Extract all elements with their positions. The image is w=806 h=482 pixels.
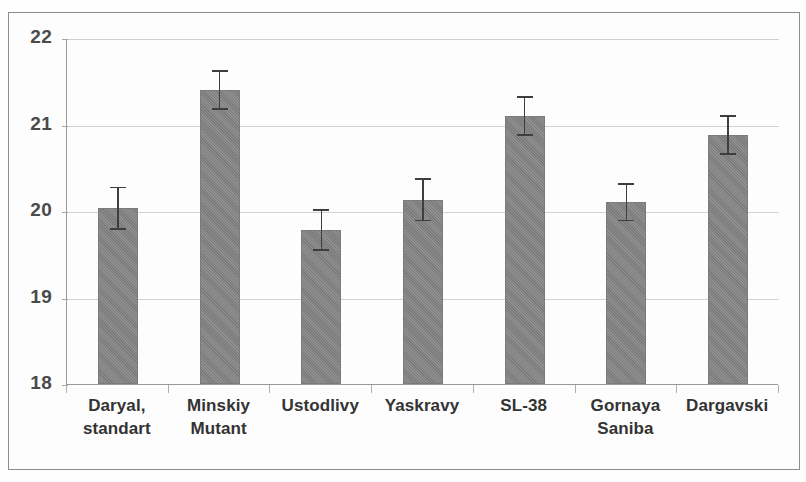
error-bar-stem xyxy=(321,209,323,251)
error-bar-stem xyxy=(422,178,424,221)
bar-chart-figure: 2221201918 Daryal,standartMinskiyMutantU… xyxy=(0,0,806,482)
x-category-label: Daryal,standart xyxy=(66,394,168,440)
bar xyxy=(301,230,341,384)
y-tick-label: 22 xyxy=(0,26,52,48)
error-bar-cap-bottom xyxy=(313,249,329,251)
x-tick-mark xyxy=(575,385,576,393)
error-bar-stem xyxy=(727,115,729,155)
error-bar-cap-top xyxy=(618,183,634,185)
error-bar-stem xyxy=(117,187,119,230)
bar-group xyxy=(372,38,474,384)
x-category-label-line: Ustodlivy xyxy=(269,394,371,417)
bar-group xyxy=(576,38,678,384)
x-tick-mark xyxy=(269,385,270,393)
error-bar-cap-bottom xyxy=(212,108,228,110)
x-tick-mark xyxy=(676,385,677,393)
bar xyxy=(200,90,240,384)
x-category-label-line: Dargavski xyxy=(676,394,778,417)
bar-group xyxy=(270,38,372,384)
x-tick-mark xyxy=(778,385,779,393)
bar-group xyxy=(677,38,779,384)
plot-area xyxy=(66,39,778,385)
x-category-label-line: Gornaya xyxy=(575,394,677,417)
x-category-label: Yaskravy xyxy=(371,394,473,417)
x-category-label-line: SL-38 xyxy=(473,394,575,417)
x-category-label: Dargavski xyxy=(676,394,778,417)
bar xyxy=(98,208,138,384)
bar-group xyxy=(169,38,271,384)
y-tick-label: 21 xyxy=(0,113,52,135)
bar-group xyxy=(474,38,576,384)
y-tick-label: 19 xyxy=(0,286,52,308)
x-category-label-line: Yaskravy xyxy=(371,394,473,417)
error-bar-cap-top xyxy=(517,96,533,98)
error-bar-cap-top xyxy=(415,178,431,180)
error-bar-cap-top xyxy=(212,70,228,72)
bar xyxy=(505,116,545,384)
error-bar-stem xyxy=(524,96,526,136)
bar xyxy=(708,135,748,384)
error-bar-cap-top xyxy=(720,115,736,117)
error-bar-cap-bottom xyxy=(618,220,634,222)
x-axis-category-labels: Daryal,standartMinskiyMutantUstodlivyYas… xyxy=(66,394,778,464)
x-category-label: Ustodlivy xyxy=(269,394,371,417)
y-tick-label: 18 xyxy=(0,372,52,394)
y-axis-tick-labels: 2221201918 xyxy=(0,0,66,482)
x-tick-mark xyxy=(66,385,67,393)
x-tick-mark xyxy=(168,385,169,393)
error-bar-cap-top xyxy=(313,209,329,211)
x-category-label-line: standart xyxy=(66,417,168,440)
error-bar-cap-bottom xyxy=(517,134,533,136)
error-bar-cap-top xyxy=(110,187,126,189)
x-category-label-line: Saniba xyxy=(575,417,677,440)
bar xyxy=(606,202,646,384)
x-tick-mark xyxy=(371,385,372,393)
y-tick-label: 20 xyxy=(0,199,52,221)
error-bar-cap-bottom xyxy=(720,153,736,155)
x-category-label: SL-38 xyxy=(473,394,575,417)
x-category-label-line: Daryal, xyxy=(66,394,168,417)
x-tick-mark xyxy=(473,385,474,393)
x-category-label: MinskiyMutant xyxy=(168,394,270,440)
x-category-label: GornayaSaniba xyxy=(575,394,677,440)
x-category-label-line: Minskiy xyxy=(168,394,270,417)
error-bar-stem xyxy=(219,70,221,110)
bar-group xyxy=(67,38,169,384)
bar xyxy=(403,200,443,384)
error-bar-cap-bottom xyxy=(415,220,431,222)
error-bar-cap-bottom xyxy=(110,228,126,230)
error-bar-stem xyxy=(626,183,628,221)
x-category-label-line: Mutant xyxy=(168,417,270,440)
